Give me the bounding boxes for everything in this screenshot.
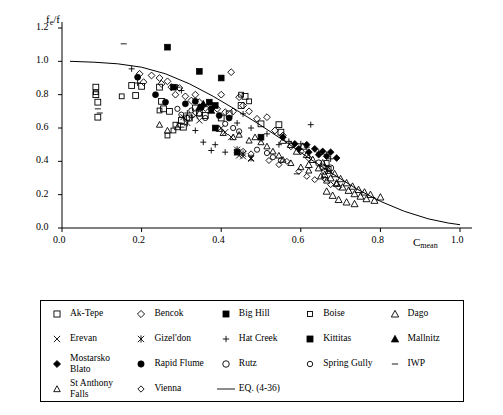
- dash-icon: [385, 356, 405, 372]
- x-tick-label: 0.4: [212, 234, 225, 245]
- legend-item: Big Hill: [210, 301, 294, 326]
- legend-item: EQ. (4-36): [210, 376, 294, 401]
- cross-x-icon: [47, 331, 67, 347]
- open-square-icon: [47, 306, 67, 322]
- y-tick-label: 0.0: [36, 221, 49, 232]
- legend-item: Ak-Tepe: [41, 301, 125, 326]
- legend-item: Mostarsko Blato: [41, 351, 125, 376]
- y-tick-label: 0.4: [36, 154, 49, 165]
- axis-lines: [62, 22, 472, 228]
- x-tick-label: 0.6: [292, 234, 305, 245]
- open-circle-small-icon: [300, 356, 320, 372]
- legend-item-label: Boise: [323, 308, 345, 319]
- series-bencok: [136, 69, 312, 162]
- legend-item-label: Erevan: [70, 333, 97, 344]
- legend-item: Bencok: [125, 301, 209, 326]
- filled-square-icon: [216, 306, 236, 322]
- legend-item-label: Mostarsko Blato: [70, 353, 110, 374]
- legend-item: Spring Gully: [294, 351, 378, 376]
- legend-item: St Anthony Falls: [41, 376, 125, 401]
- y-tick-label: 0.2: [36, 188, 49, 199]
- x-tick-label: 1.0: [451, 234, 464, 245]
- legend-item: Erevan: [41, 326, 125, 351]
- legend-item: Rutz: [210, 351, 294, 376]
- line-icon: [216, 381, 236, 397]
- open-square-small-icon: [300, 306, 320, 322]
- legend-item-label: Ak-Tepe: [70, 308, 103, 319]
- legend-item: IWP: [379, 351, 463, 376]
- y-tick-label: 0.8: [36, 88, 49, 99]
- series-hat-creek: [129, 66, 334, 162]
- legend-item: Vienna: [125, 376, 209, 401]
- legend-item-label: EQ. (4-36): [239, 383, 280, 394]
- x-tick-label: 0.0: [53, 234, 66, 245]
- legend-item: Dago: [379, 301, 463, 326]
- legend-item: Rapid Flume: [125, 351, 209, 376]
- plot-area: fe/f Cmean 0.00.20.40.60.81.01.20.00.20.…: [0, 0, 503, 290]
- legend-item: Gizel'don: [125, 326, 209, 351]
- legend-item-label: Mallnitz: [408, 333, 440, 344]
- legend-item-label: Rutz: [239, 358, 257, 369]
- legend-item-label: Rapid Flume: [154, 358, 203, 369]
- legend-item-label: Dago: [408, 308, 429, 319]
- legend-item-label: IWP: [408, 358, 425, 369]
- filled-square-icon: [300, 331, 320, 347]
- legend-item-label: Hat Creek: [239, 333, 278, 344]
- legend-item: Hat Creek: [210, 326, 294, 351]
- legend-item: Mallnitz: [379, 326, 463, 351]
- x-tick-label: 0.8: [371, 234, 384, 245]
- open-triangle-small-icon: [47, 381, 67, 397]
- axis-ticks: [58, 28, 460, 232]
- series-big-hill: [165, 44, 240, 155]
- legend-item-label: St Anthony Falls: [70, 378, 113, 399]
- open-triangle-icon: [385, 306, 405, 322]
- filled-triangle-icon: [385, 331, 405, 347]
- y-tick-label: 0.6: [36, 121, 49, 132]
- legend: Ak-TepeBencokBig HillBoiseDagoErevanGize…: [40, 300, 464, 402]
- legend-item-label: Kittitas: [323, 333, 351, 344]
- x-tick-label: 0.2: [133, 234, 146, 245]
- legend-item-label: Bencok: [154, 308, 183, 319]
- plus-icon: [216, 331, 236, 347]
- legend-item-label: Big Hill: [239, 308, 270, 319]
- y-tick-label: 1.2: [36, 21, 49, 32]
- open-diamond-small-icon: [131, 381, 151, 397]
- filled-circle-icon: [131, 356, 151, 372]
- open-diamond-icon: [131, 306, 151, 322]
- legend-item: Boise: [294, 301, 378, 326]
- legend-item-label: Gizel'don: [154, 333, 191, 344]
- legend-item-label: Spring Gully: [323, 358, 372, 369]
- y-tick-label: 1.0: [36, 54, 49, 65]
- x-axis-label: Cmean: [413, 236, 438, 250]
- legend-item: Kittitas: [294, 326, 378, 351]
- open-circle-icon: [216, 356, 236, 372]
- x-axis-label-sub: mean: [420, 241, 437, 250]
- series-erevan: [192, 113, 254, 162]
- legend-grid: Ak-TepeBencokBig HillBoiseDagoErevanGize…: [41, 301, 463, 401]
- chart-figure: fe/f Cmean 0.00.20.40.60.81.01.20.00.20.…: [0, 0, 503, 415]
- asterisk-icon: [131, 331, 151, 347]
- legend-item-label: Vienna: [154, 383, 181, 394]
- series-ak-tepe: [93, 83, 284, 135]
- filled-diamond-icon: [47, 356, 67, 372]
- y-axis-label-tail: /f: [53, 13, 60, 25]
